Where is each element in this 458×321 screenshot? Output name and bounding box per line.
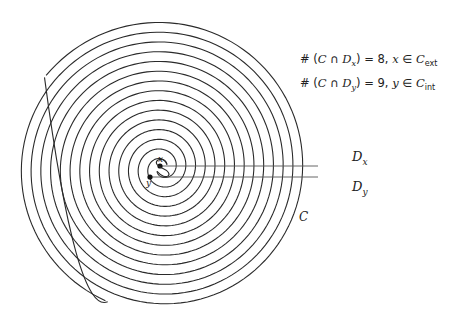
point-x-label: x: [158, 155, 163, 164]
curve-c-arm-b: [21, 32, 293, 300]
point-y-label: y: [146, 179, 151, 188]
curve-c-end-hook: [44, 77, 107, 302]
ray-d-y-label: Dy: [352, 180, 368, 197]
ray-d-x-label: Dx: [352, 150, 368, 167]
curve-c-label: C: [299, 211, 308, 223]
annotation-dy-count: # (C ∩ Dy) = 9, y ∈ Cint: [300, 76, 435, 92]
spiral-diagram: [0, 0, 458, 321]
annotation-dx-count: # (C ∩ Dx) = 8, x ∈ Cext: [300, 52, 437, 68]
